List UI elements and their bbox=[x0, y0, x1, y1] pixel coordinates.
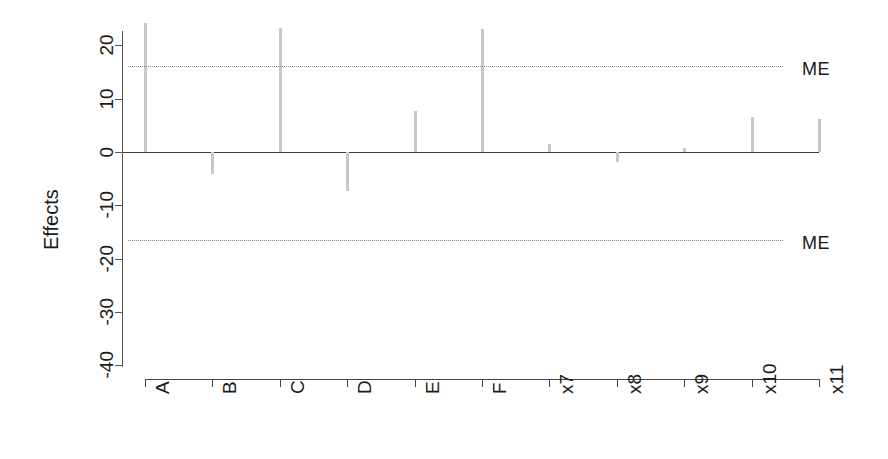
bar-x9 bbox=[683, 148, 686, 152]
x-tick-C bbox=[280, 379, 281, 387]
x-tick-label-text: C bbox=[287, 380, 309, 394]
x-tick-label-text: A bbox=[152, 381, 174, 394]
bar-x10 bbox=[751, 117, 754, 152]
y-tick-label-text: -40 bbox=[96, 351, 118, 378]
x-tick-label-text: x8 bbox=[624, 374, 646, 394]
x-tick-label-text: E bbox=[422, 381, 444, 394]
x-tick-D bbox=[347, 379, 348, 387]
bar-A bbox=[144, 23, 147, 152]
x-tick-x11 bbox=[819, 379, 820, 387]
me-label-lower: ME bbox=[802, 233, 830, 254]
x-tick-label-text: x10 bbox=[759, 363, 781, 394]
y-tick-label-text: -20 bbox=[96, 245, 118, 272]
x-tick-label-text: x7 bbox=[556, 374, 578, 394]
bar-C bbox=[279, 28, 282, 152]
x-tick-label-text: F bbox=[489, 382, 511, 394]
bar-B bbox=[211, 152, 214, 174]
x-tick-label-text: B bbox=[219, 381, 241, 394]
bar-x11 bbox=[818, 119, 821, 152]
me-label-upper: ME bbox=[802, 59, 830, 80]
y-tick-label-text: -10 bbox=[96, 191, 118, 218]
x-tick-B bbox=[212, 379, 213, 387]
bar-E bbox=[414, 111, 417, 152]
y-axis-line bbox=[122, 31, 123, 367]
y-tick-label-text: -30 bbox=[96, 298, 118, 325]
bar-F bbox=[481, 29, 484, 152]
y-tick-label-text: 20 bbox=[96, 35, 118, 56]
bar-x7 bbox=[548, 144, 551, 152]
x-tick-A bbox=[145, 379, 146, 387]
x-tick-E bbox=[415, 379, 416, 387]
y-tick-label-text: 0 bbox=[96, 147, 118, 158]
effects-pareto-chart: ME ME 20100-10-20-30-40 Effects ABCDEFx7… bbox=[0, 0, 888, 459]
x-tick-label-text: x9 bbox=[691, 374, 713, 394]
me-line-upper bbox=[128, 66, 783, 67]
x-tick-x7 bbox=[549, 379, 550, 387]
bar-x8 bbox=[616, 152, 619, 162]
x-tick-label-text: x11 bbox=[826, 365, 848, 394]
zero-reference-line bbox=[122, 152, 819, 153]
y-tick-label-text: 10 bbox=[96, 88, 118, 109]
x-tick-x8 bbox=[617, 379, 618, 387]
y-axis-title: Effects bbox=[40, 189, 63, 250]
x-tick-label-text: D bbox=[354, 380, 376, 394]
bar-D bbox=[346, 152, 349, 191]
x-tick-x9 bbox=[684, 379, 685, 387]
x-tick-F bbox=[482, 379, 483, 387]
x-tick-x10 bbox=[752, 379, 753, 387]
me-line-lower bbox=[128, 240, 783, 241]
